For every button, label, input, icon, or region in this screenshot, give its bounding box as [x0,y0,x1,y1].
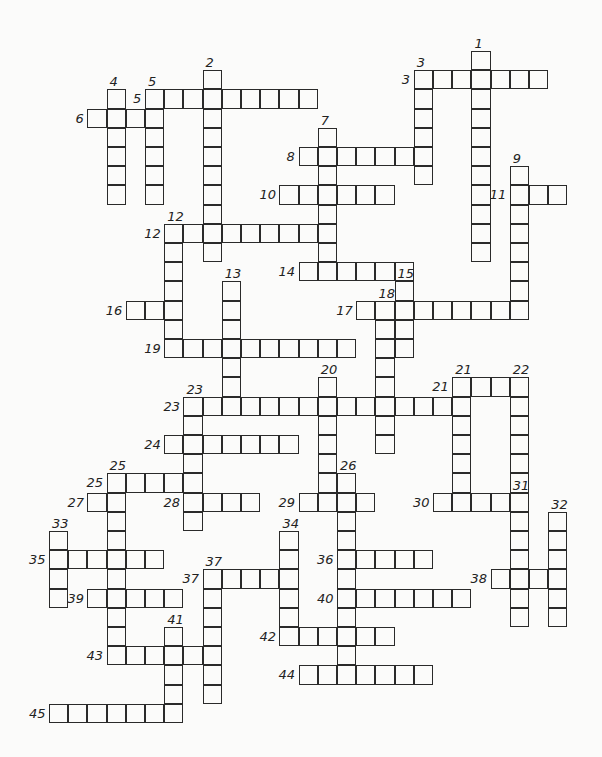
crossword-cell[interactable] [395,339,414,358]
crossword-cell[interactable] [414,109,433,128]
crossword-cell[interactable] [395,301,414,320]
crossword-cell[interactable] [318,473,337,492]
crossword-cell[interactable] [375,301,394,320]
crossword-cell[interactable] [375,339,394,358]
crossword-cell[interactable] [107,473,126,492]
crossword-cell[interactable] [375,320,394,339]
crossword-cell[interactable] [145,301,164,320]
crossword-cell[interactable] [126,301,145,320]
crossword-cell[interactable] [222,397,241,416]
crossword-cell[interactable] [433,589,452,608]
crossword-cell[interactable] [87,109,106,128]
crossword-cell[interactable] [471,109,490,128]
crossword-cell[interactable] [241,397,260,416]
crossword-cell[interactable] [414,550,433,569]
crossword-cell[interactable] [107,185,126,204]
crossword-cell[interactable] [318,493,337,512]
crossword-cell[interactable] [164,646,183,665]
crossword-cell[interactable] [337,627,356,646]
crossword-cell[interactable] [510,435,529,454]
crossword-cell[interactable] [471,166,490,185]
crossword-cell[interactable] [318,435,337,454]
crossword-cell[interactable] [375,435,394,454]
crossword-cell[interactable] [49,589,68,608]
crossword-cell[interactable] [452,416,471,435]
crossword-cell[interactable] [433,493,452,512]
crossword-cell[interactable] [164,685,183,704]
crossword-cell[interactable] [164,243,183,262]
crossword-cell[interactable] [164,224,183,243]
crossword-cell[interactable] [279,627,298,646]
crossword-cell[interactable] [145,185,164,204]
crossword-cell[interactable] [279,435,298,454]
crossword-cell[interactable] [145,550,164,569]
crossword-cell[interactable] [318,454,337,473]
crossword-cell[interactable] [87,589,106,608]
crossword-cell[interactable] [548,589,567,608]
crossword-cell[interactable] [107,646,126,665]
crossword-cell[interactable] [395,397,414,416]
crossword-cell[interactable] [203,166,222,185]
crossword-cell[interactable] [183,435,202,454]
crossword-cell[interactable] [529,569,548,588]
crossword-cell[interactable] [260,435,279,454]
crossword-cell[interactable] [491,493,510,512]
crossword-cell[interactable] [107,147,126,166]
crossword-cell[interactable] [107,128,126,147]
crossword-cell[interactable] [260,569,279,588]
crossword-cell[interactable] [318,243,337,262]
crossword-cell[interactable] [222,339,241,358]
crossword-cell[interactable] [318,262,337,281]
crossword-cell[interactable] [395,320,414,339]
crossword-cell[interactable] [375,147,394,166]
crossword-cell[interactable] [279,608,298,627]
crossword-cell[interactable] [299,89,318,108]
crossword-cell[interactable] [510,224,529,243]
crossword-cell[interactable] [203,243,222,262]
crossword-cell[interactable] [203,589,222,608]
crossword-cell[interactable] [279,531,298,550]
crossword-cell[interactable] [126,646,145,665]
crossword-cell[interactable] [471,377,490,396]
crossword-cell[interactable] [145,166,164,185]
crossword-cell[interactable] [337,185,356,204]
crossword-cell[interactable] [49,531,68,550]
crossword-cell[interactable] [356,589,375,608]
crossword-cell[interactable] [145,473,164,492]
crossword-cell[interactable] [183,89,202,108]
crossword-cell[interactable] [222,377,241,396]
crossword-cell[interactable] [107,493,126,512]
crossword-cell[interactable] [145,128,164,147]
crossword-cell[interactable] [510,262,529,281]
crossword-cell[interactable] [222,435,241,454]
crossword-cell[interactable] [279,224,298,243]
crossword-cell[interactable] [414,89,433,108]
crossword-cell[interactable] [510,397,529,416]
crossword-cell[interactable] [164,89,183,108]
crossword-cell[interactable] [203,569,222,588]
crossword-cell[interactable] [107,550,126,569]
crossword-cell[interactable] [203,147,222,166]
crossword-cell[interactable] [279,397,298,416]
crossword-cell[interactable] [452,435,471,454]
crossword-cell[interactable] [471,205,490,224]
crossword-cell[interactable] [203,70,222,89]
crossword-cell[interactable] [203,109,222,128]
crossword-cell[interactable] [279,589,298,608]
crossword-cell[interactable] [145,589,164,608]
crossword-cell[interactable] [414,128,433,147]
crossword-cell[interactable] [337,147,356,166]
crossword-cell[interactable] [145,109,164,128]
crossword-cell[interactable] [107,166,126,185]
crossword-cell[interactable] [260,89,279,108]
crossword-cell[interactable] [68,550,87,569]
crossword-cell[interactable] [299,493,318,512]
crossword-cell[interactable] [337,569,356,588]
crossword-cell[interactable] [299,665,318,684]
crossword-cell[interactable] [375,377,394,396]
crossword-cell[interactable] [203,685,222,704]
crossword-cell[interactable] [548,185,567,204]
crossword-cell[interactable] [510,70,529,89]
crossword-cell[interactable] [299,185,318,204]
crossword-cell[interactable] [548,512,567,531]
